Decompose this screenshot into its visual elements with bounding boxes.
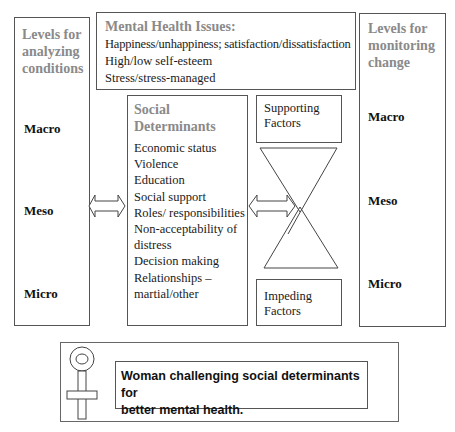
footer-line: Woman challenging social determinants fo…	[121, 368, 367, 402]
footer-box: Woman challenging social determinants fo…	[60, 342, 399, 422]
middle-double-arrow-icon	[249, 195, 295, 217]
female-symbol-icon	[66, 345, 102, 421]
footer-line: better mental health.	[121, 402, 367, 419]
footer-message-box: Woman challenging social determinants fo…	[115, 361, 368, 409]
hourglass-bottom-triangle-icon	[264, 207, 338, 268]
left-double-arrow-icon	[89, 195, 125, 217]
